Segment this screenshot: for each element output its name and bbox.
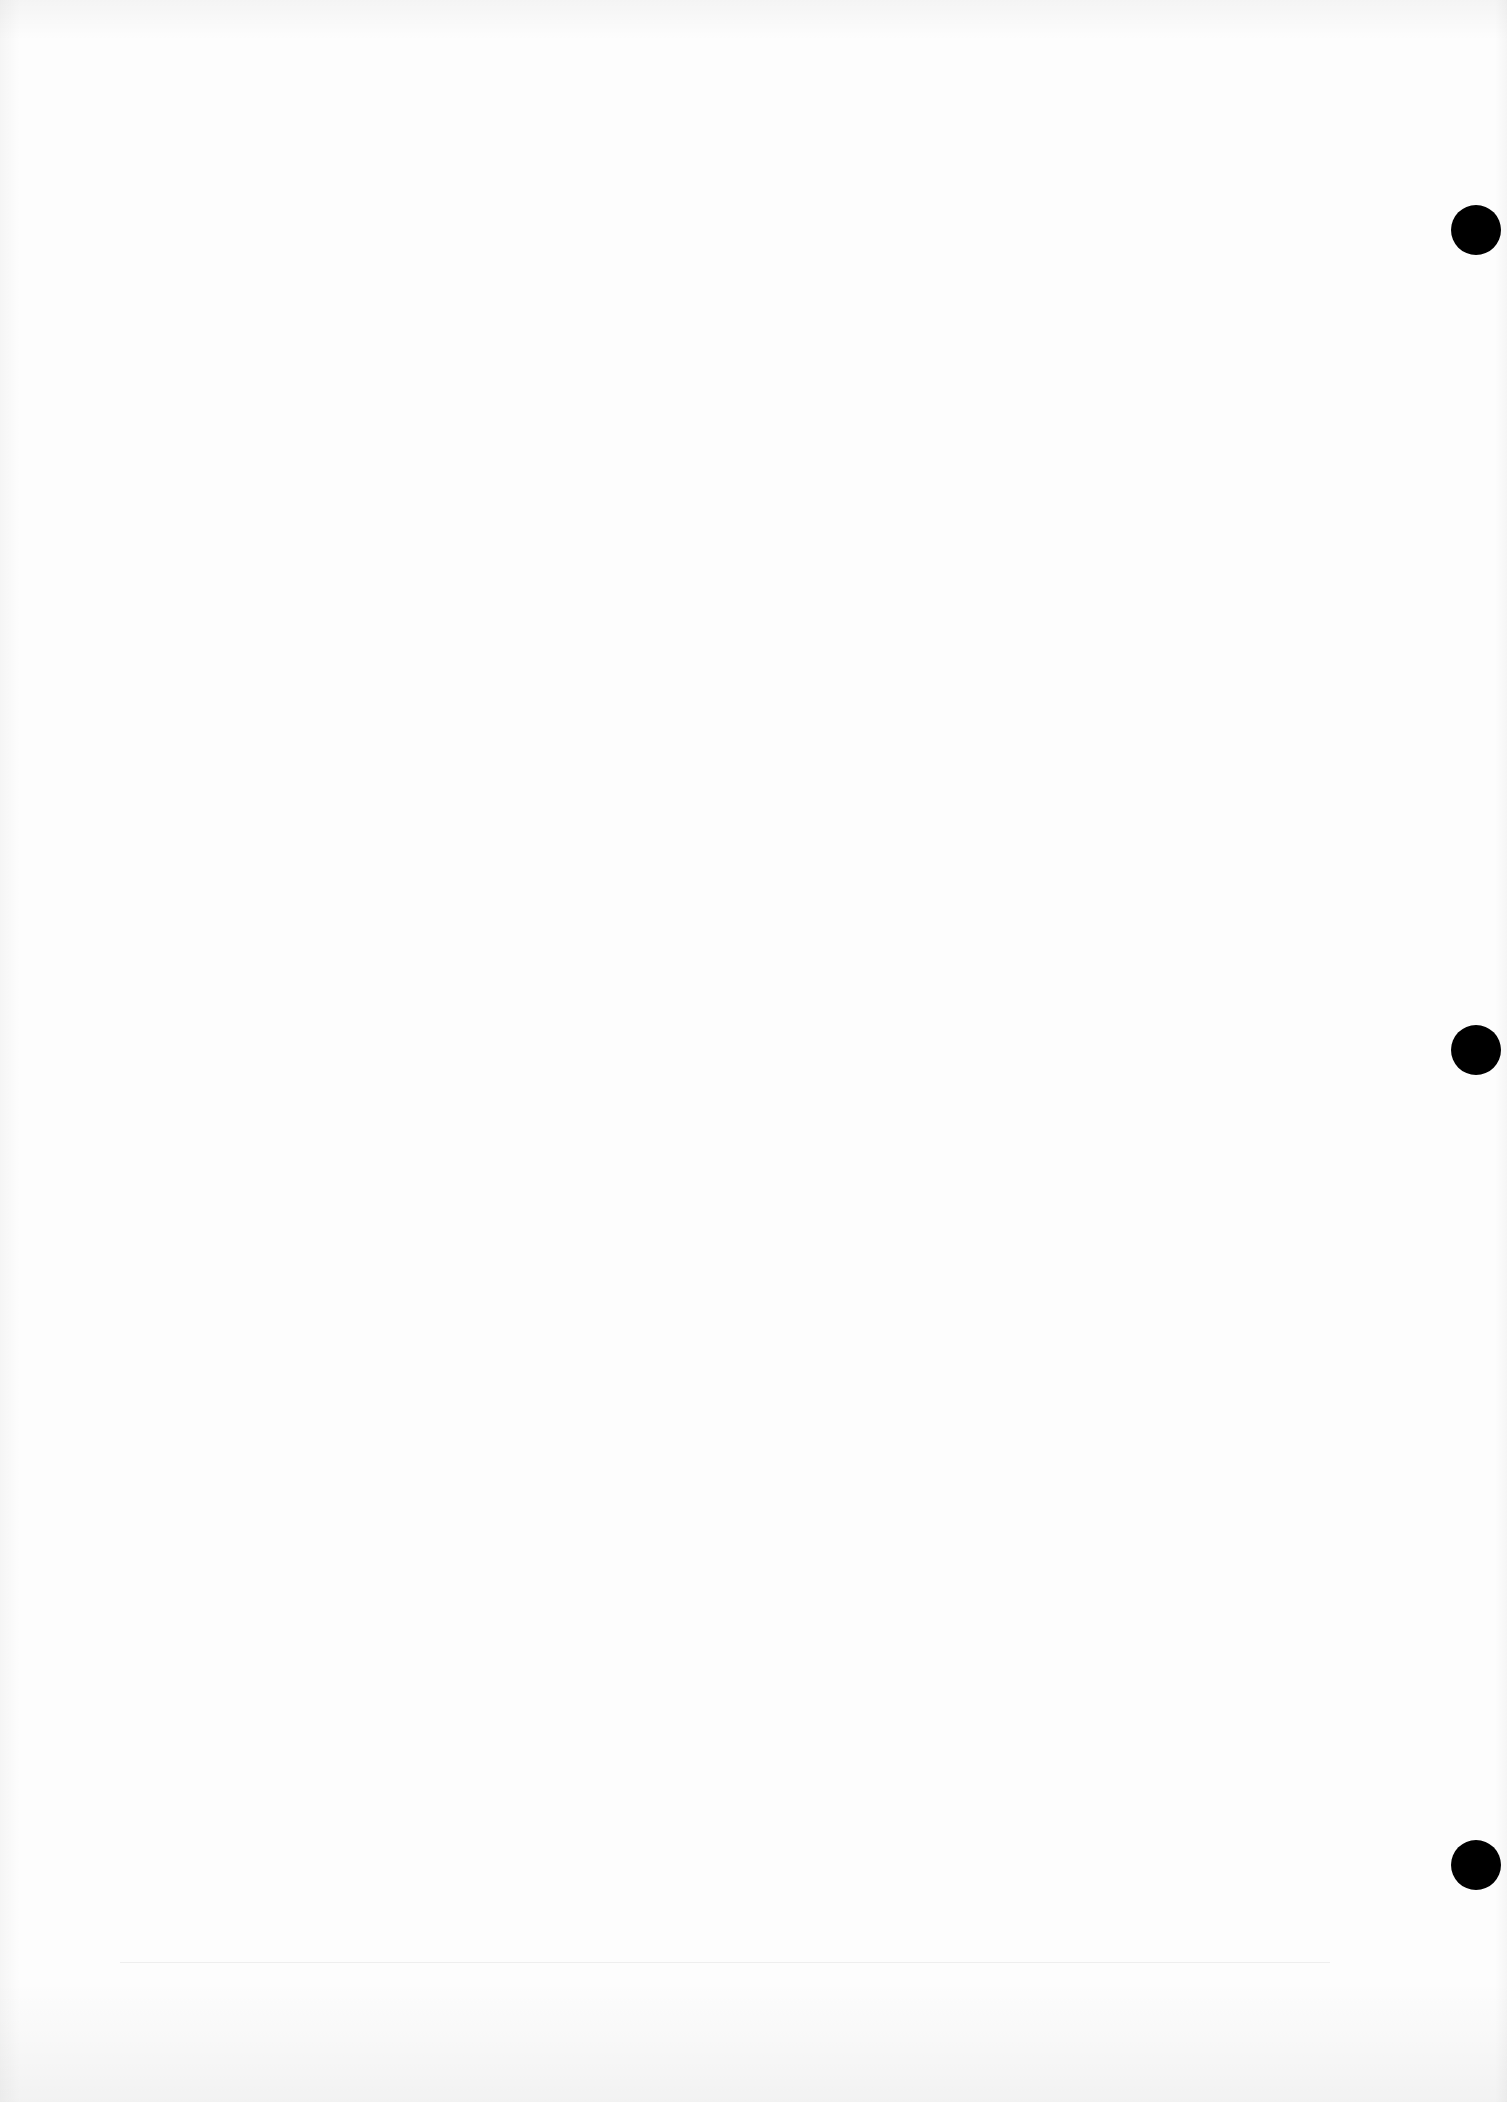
punch-hole-bottom [1451,1840,1501,1890]
punch-hole-top [1451,205,1501,255]
blank-scanned-page [0,0,1507,2102]
punch-hole-middle [1451,1025,1501,1075]
faint-scan-line [120,1962,1330,1963]
